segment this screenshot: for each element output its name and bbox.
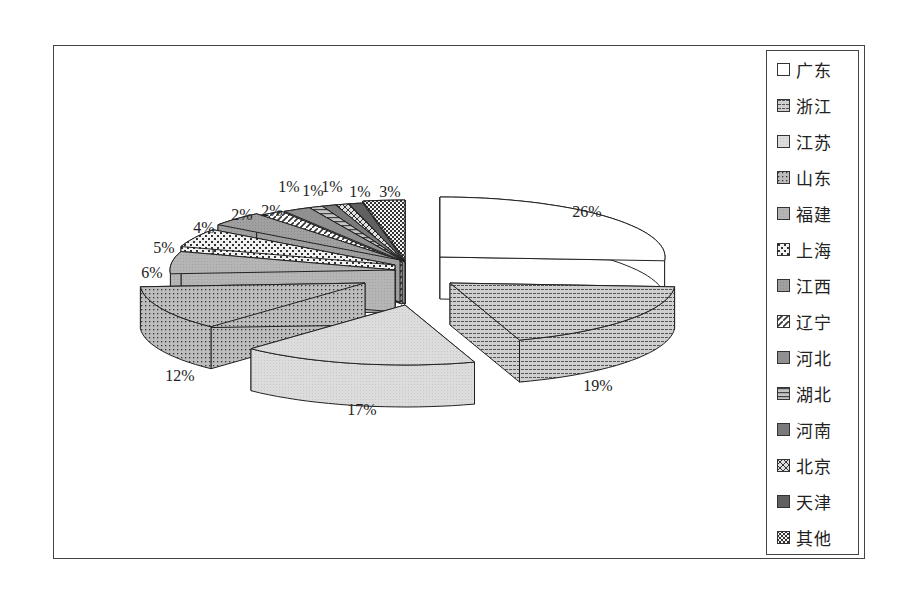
legend-item: 福建 <box>777 201 832 225</box>
pie-slices <box>140 197 674 407</box>
legend-label: 辽宁 <box>796 309 832 334</box>
percent-label: 19% <box>583 377 612 394</box>
legend-item: 天津 <box>777 489 832 513</box>
legend-swatch-icon <box>777 63 790 76</box>
legend-item: 河北 <box>777 345 832 369</box>
pie-slice-浙江 <box>450 283 675 382</box>
legend: 广东浙江江苏山东福建上海江西辽宁河北湖北河南北京天津其他 <box>766 50 859 555</box>
percent-label: 1% <box>349 183 370 200</box>
legend-swatch-icon <box>777 279 790 292</box>
legend-item: 北京 <box>777 453 832 477</box>
legend-item: 河南 <box>777 417 832 441</box>
legend-label: 河南 <box>796 417 832 442</box>
legend-item: 江西 <box>777 273 832 297</box>
percent-label: 12% <box>165 367 194 384</box>
legend-swatch-icon <box>777 387 790 400</box>
legend-label: 浙江 <box>796 93 832 118</box>
percent-label: 26% <box>572 203 601 220</box>
legend-label: 河北 <box>796 345 832 370</box>
percent-label: 4% <box>193 219 214 236</box>
legend-label: 福建 <box>796 201 832 226</box>
legend-swatch-icon <box>777 243 790 256</box>
legend-item: 其他 <box>777 525 832 549</box>
legend-label: 湖北 <box>796 381 832 406</box>
legend-item: 广东 <box>777 57 832 81</box>
legend-swatch-icon <box>777 351 790 364</box>
legend-item: 湖北 <box>777 381 832 405</box>
legend-label: 其他 <box>796 525 832 550</box>
legend-swatch-icon <box>777 135 790 148</box>
percent-label: 1% <box>278 178 299 195</box>
legend-item: 上海 <box>777 237 832 261</box>
legend-label: 上海 <box>796 237 832 262</box>
legend-swatch-icon <box>777 99 790 112</box>
legend-item: 江苏 <box>777 129 832 153</box>
percent-label: 2% <box>231 206 252 223</box>
legend-label: 天津 <box>796 489 832 514</box>
legend-swatch-icon <box>777 315 790 328</box>
legend-label: 广东 <box>796 57 832 82</box>
legend-item: 浙江 <box>777 93 832 117</box>
percent-label: 1% <box>321 178 342 195</box>
legend-swatch-icon <box>777 423 790 436</box>
percent-label: 17% <box>347 401 376 418</box>
legend-label: 江苏 <box>796 129 832 154</box>
percent-label: 5% <box>153 239 174 256</box>
legend-label: 山东 <box>796 165 832 190</box>
legend-swatch-icon <box>777 171 790 184</box>
legend-swatch-icon <box>777 459 790 472</box>
percent-label: 6% <box>141 264 162 281</box>
legend-swatch-icon <box>777 495 790 508</box>
legend-label: 北京 <box>796 453 832 478</box>
percent-label: 3% <box>379 183 400 200</box>
legend-item: 辽宁 <box>777 309 832 333</box>
legend-label: 江西 <box>796 273 832 298</box>
percent-label: 2% <box>261 202 282 219</box>
legend-item: 山东 <box>777 165 832 189</box>
legend-swatch-icon <box>777 207 790 220</box>
legend-swatch-icon <box>777 531 790 544</box>
